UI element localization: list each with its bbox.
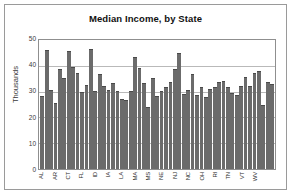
- x-tick-slot: [57, 171, 61, 195]
- x-tick-slot: ID: [93, 171, 97, 195]
- bar: [71, 67, 75, 169]
- bar: [244, 77, 248, 169]
- x-tick-slot: LA: [120, 171, 124, 195]
- x-tick-slot: [137, 171, 141, 195]
- bar: [257, 71, 261, 169]
- bar: [204, 97, 208, 169]
- bar: [138, 68, 142, 169]
- bar: [164, 87, 168, 169]
- bar: [67, 51, 71, 169]
- x-tick-slot: [271, 171, 275, 195]
- bar: [151, 78, 155, 169]
- x-tick-slot: [151, 171, 155, 195]
- bar: [111, 83, 115, 169]
- x-tick-slot: [266, 171, 270, 195]
- bar: [270, 84, 274, 169]
- bar: [173, 69, 177, 169]
- bar: [133, 57, 137, 169]
- bar-series: [39, 40, 275, 169]
- x-tick-slot: NC: [186, 171, 190, 195]
- bar: [62, 78, 66, 169]
- x-tick-slot: IA: [106, 171, 110, 195]
- bar: [49, 90, 53, 169]
- bar: [248, 86, 252, 169]
- bar: [80, 92, 84, 169]
- bar: [58, 69, 62, 169]
- bar: [177, 53, 181, 169]
- x-tick-slot: [97, 171, 101, 195]
- chart-title: Median Income, by State: [5, 13, 286, 24]
- x-tick-slot: [71, 171, 75, 195]
- bar: [146, 107, 150, 169]
- bar: [98, 74, 102, 169]
- bar: [40, 96, 44, 169]
- bar: [129, 91, 133, 169]
- bar: [45, 50, 49, 169]
- x-tick-slot: TN: [226, 171, 230, 195]
- bar: [186, 90, 190, 169]
- x-tick-slot: FL: [79, 171, 83, 195]
- x-tick-slot: [124, 171, 128, 195]
- bar: [76, 73, 80, 169]
- x-tick-slot: [217, 171, 221, 195]
- y-tick-label: 50: [29, 35, 36, 43]
- x-tick-slot: OH: [200, 171, 204, 195]
- x-tick-slot: RI: [213, 171, 217, 195]
- x-tick-slot: WV: [253, 171, 257, 195]
- bar: [226, 87, 230, 169]
- x-tick-slot: MS: [146, 171, 150, 195]
- x-tick-slot: MA: [133, 171, 137, 195]
- bar: [261, 105, 265, 170]
- x-tick-slot: NJ: [173, 171, 177, 195]
- bar: [120, 99, 124, 169]
- bar: [116, 91, 120, 169]
- y-axis-tick-labels: 01020304050: [17, 35, 36, 174]
- x-tick-slot: [258, 171, 262, 195]
- x-tick-slot: CT: [66, 171, 70, 195]
- bar: [89, 49, 93, 169]
- bar: [230, 93, 234, 169]
- bar: [142, 83, 146, 169]
- bar: [155, 96, 159, 169]
- bar: [160, 91, 164, 169]
- bar: [208, 89, 212, 169]
- bar: [239, 86, 243, 169]
- bar: [124, 100, 128, 169]
- x-tick-slot: [244, 171, 248, 195]
- x-tick-slot: NE: [160, 171, 164, 195]
- bar: [182, 94, 186, 169]
- x-tick-slot: [262, 171, 266, 195]
- bar: [191, 74, 195, 169]
- bar: [266, 82, 270, 169]
- x-tick-slot: AR: [53, 171, 57, 195]
- y-tick-label: 10: [29, 140, 36, 148]
- x-tick-slot: [111, 171, 115, 195]
- x-tick-slot: [191, 171, 195, 195]
- x-tick-slot: [44, 171, 48, 195]
- x-tick-slot: [177, 171, 181, 195]
- x-axis-tick-labels: ALARCTFLIDIALAMAMSNENJNCOHRITNVTWV: [38, 171, 276, 195]
- bar: [253, 73, 257, 169]
- bar: [200, 87, 204, 169]
- x-tick-slot: AL: [39, 171, 43, 195]
- bar: [85, 85, 89, 169]
- y-tick-label: 30: [29, 87, 36, 95]
- bar: [93, 91, 97, 169]
- bar: [169, 82, 173, 169]
- y-tick-label: 0: [32, 166, 36, 174]
- bar: [213, 87, 217, 169]
- y-tick-label: 40: [29, 61, 36, 69]
- plot-area: [38, 39, 276, 170]
- bar: [54, 103, 58, 169]
- bar: [217, 82, 221, 169]
- bar: [222, 81, 226, 169]
- bar: [107, 90, 111, 169]
- y-tick-label: 20: [29, 114, 36, 122]
- x-tick-slot: [164, 171, 168, 195]
- x-tick-slot: VT: [240, 171, 244, 195]
- x-tick-slot: [231, 171, 235, 195]
- bar: [235, 95, 239, 169]
- x-tick-slot: [204, 171, 208, 195]
- chart-container: Median Income, by State Thousands 010203…: [4, 4, 287, 190]
- bar: [195, 95, 199, 169]
